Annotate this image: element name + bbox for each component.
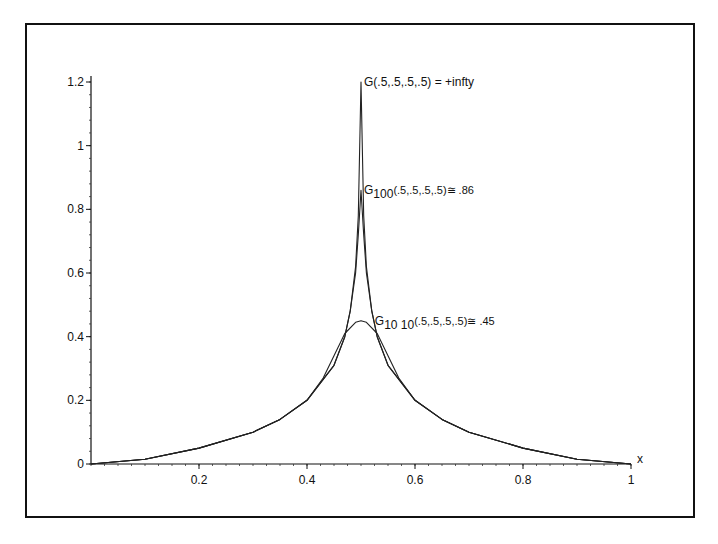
chart: 00.20.40.60.811.20.20.40.60.81x G(.5,.5,…: [0, 0, 718, 544]
y-tick-label: 1: [77, 139, 84, 153]
x-tick-label: 0.4: [299, 473, 316, 487]
curves: [91, 82, 631, 464]
x-tick-label: 0.2: [191, 473, 208, 487]
x-tick-label: 1: [628, 473, 635, 487]
y-tick-label: 0: [77, 457, 84, 471]
x-axis-label: x: [637, 452, 643, 466]
y-tick-label: 1.2: [67, 75, 84, 89]
y-tick-label: 0.4: [67, 330, 84, 344]
labels: G(.5,.5,.5,.5) = +inftyG100(.5,.5,.5,.5)…: [364, 75, 495, 332]
y-tick-label: 0.8: [67, 202, 84, 216]
curve-g10-10: [91, 321, 631, 464]
y-tick-label: 0.2: [67, 393, 84, 407]
y-tick-label: 0.6: [67, 266, 84, 280]
x-tick-label: 0.8: [515, 473, 532, 487]
annotation-g100: G100(.5,.5,.5,.5)≅ .86: [364, 183, 474, 201]
axes: 00.20.40.60.811.20.20.40.60.81x: [67, 75, 643, 487]
curve-g100: [91, 190, 631, 464]
annotation-g: G(.5,.5,.5,.5) = +infty: [364, 75, 474, 89]
annotation-g1010: G10 10(.5,.5,.5,.5)≅ .45: [375, 314, 495, 332]
x-tick-label: 0.6: [407, 473, 424, 487]
curve-g: [91, 82, 631, 464]
